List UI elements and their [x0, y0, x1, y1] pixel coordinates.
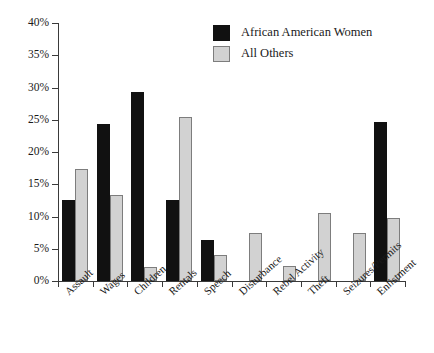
- x-axis-tick: [266, 282, 267, 287]
- x-axis-tick: [232, 282, 233, 287]
- x-axis-tick: [197, 282, 198, 287]
- x-axis-tick: [405, 282, 406, 287]
- legend-item-all-others: All Others: [213, 43, 372, 64]
- x-axis-tick: [93, 282, 94, 287]
- x-axis-tick: [301, 282, 302, 287]
- bar: [131, 92, 144, 281]
- legend-item-african-american-women: African American Women: [213, 22, 372, 43]
- x-axis-tick: [162, 282, 163, 287]
- bar-chart: 0%5%10%15%20%25%30%35%40% AssaultWagesCh…: [0, 0, 434, 353]
- y-axis-tick-label: 40%: [8, 17, 49, 29]
- legend-label: All Others: [241, 47, 293, 60]
- bar: [97, 124, 110, 281]
- legend-swatch-icon: [213, 46, 230, 62]
- legend-swatch-icon: [213, 25, 230, 41]
- x-axis-tick: [370, 282, 371, 287]
- bar: [110, 195, 123, 281]
- y-axis-tick-label: 0%: [8, 275, 49, 287]
- y-axis-tick-label: 10%: [8, 211, 49, 223]
- bar: [62, 200, 75, 281]
- x-axis-tick: [336, 282, 337, 287]
- y-axis-tick-label: 5%: [8, 243, 49, 255]
- bar: [166, 200, 179, 281]
- chart-legend: African American Women All Others: [213, 22, 372, 64]
- y-axis-tick-label: 30%: [8, 82, 49, 94]
- legend-label: African American Women: [241, 26, 372, 39]
- y-axis-tick-label: 20%: [8, 146, 49, 158]
- y-axis-tick-label: 15%: [8, 178, 49, 190]
- bar: [75, 169, 88, 281]
- y-axis-tick-label: 35%: [8, 49, 49, 61]
- bar: [179, 117, 192, 281]
- x-axis-tick: [127, 282, 128, 287]
- bar: [201, 240, 214, 281]
- y-axis-tick-label: 25%: [8, 114, 49, 126]
- x-axis-tick: [58, 282, 59, 287]
